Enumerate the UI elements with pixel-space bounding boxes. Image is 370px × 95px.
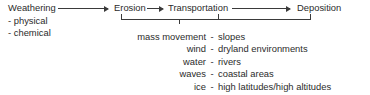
table-row: water - rivers	[120, 56, 370, 68]
list-item: - physical	[8, 15, 51, 27]
bullet-dash: -	[8, 27, 11, 38]
stage-label-erosion: Erosion	[114, 2, 146, 13]
weathering-type-label: physical	[14, 15, 48, 26]
bullet-dash: -	[8, 15, 11, 26]
agents-settings-list: mass movement - slopes wind - dryland en…	[120, 31, 370, 93]
setting-label: dryland environments	[218, 43, 308, 55]
table-row: waves - coastal areas	[120, 68, 370, 80]
separator-dash: -	[206, 43, 218, 55]
stage-label-transportation: Transportation	[168, 2, 228, 13]
stage-label-weathering: Weathering	[8, 2, 56, 13]
arrow-transportation-to-deposition	[232, 8, 290, 9]
process-flow-diagram: Weathering Erosion Transportation Deposi…	[0, 0, 370, 95]
list-item: - chemical	[8, 27, 51, 39]
separator-dash: -	[206, 56, 218, 68]
stage-label-deposition: Deposition	[297, 2, 341, 13]
agent-label: waves	[120, 68, 206, 80]
separator-dash: -	[206, 81, 218, 93]
table-row: wind - dryland environments	[120, 43, 370, 55]
setting-label: high latitudes/high altitudes	[218, 81, 331, 93]
arrow-erosion-to-transportation	[147, 8, 163, 9]
weathering-types-list: - physical - chemical	[8, 15, 51, 40]
separator-dash: -	[206, 31, 218, 43]
agent-label: water	[120, 56, 206, 68]
table-row: ice - high latitudes/high altitudes	[120, 81, 370, 93]
agent-label: wind	[120, 43, 206, 55]
arrow-weathering-to-erosion	[58, 8, 108, 9]
agent-label: mass movement	[120, 31, 206, 43]
grouping-bracket	[110, 13, 325, 27]
separator-dash: -	[206, 68, 218, 80]
table-row: mass movement - slopes	[120, 31, 370, 43]
agent-label: ice	[120, 81, 206, 93]
weathering-type-label: chemical	[14, 27, 51, 38]
setting-label: slopes	[218, 31, 245, 43]
setting-label: rivers	[218, 56, 241, 68]
setting-label: coastal areas	[218, 68, 274, 80]
